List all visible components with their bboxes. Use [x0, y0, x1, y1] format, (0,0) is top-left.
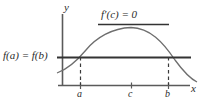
rolles-theorem-figure: y x a c b f(a) = f(b) f′(c) = 0 — [0, 0, 202, 106]
y-axis-label: y — [64, 2, 69, 13]
function-curve — [57, 28, 197, 83]
x-axis-label: x — [191, 83, 196, 94]
x-tick-label-b: b — [165, 89, 170, 99]
x-tick-label-c: c — [128, 89, 132, 99]
tangent-line-label: f′(c) = 0 — [101, 9, 137, 20]
secant-line-label: f(a) = f(b) — [3, 50, 48, 61]
x-tick-label-a: a — [77, 89, 82, 99]
